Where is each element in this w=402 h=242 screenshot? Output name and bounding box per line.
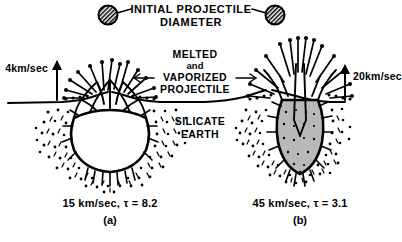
- velocity-left-label: 4km/sec: [5, 62, 48, 74]
- figure-canvas: INITIAL PROJECTILE DIAMETER MELTED and V…: [0, 0, 402, 242]
- melt-label-line1: MELTED: [173, 48, 218, 60]
- panel-b-caption: 45 km/sec, τ = 3.1: [252, 197, 347, 209]
- target-label-line1: SILICATE: [175, 115, 225, 127]
- title-line1: INITIAL PROJECTILE: [130, 3, 251, 15]
- target-label-line2: EARTH: [181, 128, 219, 140]
- melt-label-line4: PROJECTILE: [160, 83, 230, 95]
- melt-label-line3: VAPORIZED: [163, 71, 227, 83]
- title-line2: DIAMETER: [160, 16, 222, 28]
- panel-a-label: (a): [103, 214, 117, 226]
- projectile-right-hatched-circle-icon: [266, 6, 285, 25]
- projectile-left-hatched-circle-icon: [99, 6, 118, 25]
- panel-a-crater-cavity: [71, 110, 149, 172]
- impact-cratering-figure: INITIAL PROJECTILE DIAMETER MELTED and V…: [0, 0, 402, 242]
- velocity-right-label: 20km/sec: [353, 70, 402, 82]
- panel-a-caption: 15 km/sec, τ = 8.2: [62, 197, 157, 209]
- melt-label-line2: and: [187, 60, 204, 71]
- panel-b-label: (b): [293, 214, 307, 226]
